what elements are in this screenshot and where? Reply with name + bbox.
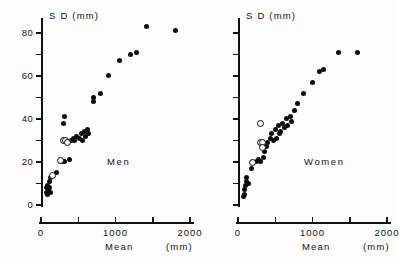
x-axis-tick [275,217,277,222]
y-axis-tick-label: 0 [4,199,33,210]
x-axis-title: Mean [302,241,331,252]
x-axis-tick [312,217,314,222]
data-point-filled [310,80,315,85]
data-point-open [57,157,64,164]
y-axis-tick [36,183,41,185]
data-point-filled [249,166,254,171]
y-axis-tick [36,97,41,99]
x-axis-tick [189,217,191,222]
y-axis-tick [233,54,238,56]
y-axis-tick [36,204,41,206]
y-axis-line [41,18,43,207]
y-axis-tick [233,118,238,120]
y-axis-tick [233,140,238,142]
y-axis-tick [36,54,41,56]
data-point-filled [336,50,341,55]
data-point-open [259,144,266,151]
data-point-filled [173,28,178,33]
x-axis-unit-label: (mm) [363,241,390,252]
x-axis-tick-label: 0 [16,227,66,238]
x-axis-tick [152,217,154,222]
y-axis-tick [36,32,41,34]
x-axis-tick [40,217,42,222]
data-point-filled [134,50,139,55]
data-point-filled [289,119,294,124]
data-point-filled [274,136,279,141]
y-axis-title: S D (mm) [246,10,296,21]
data-point-filled [117,58,122,63]
y-axis-line [238,18,240,207]
data-point-open [249,159,256,166]
y-axis-tick-label: 20 [4,156,33,167]
x-axis-tick [349,217,351,222]
data-point-filled [91,99,96,104]
x-axis-tick-label: 1000 [288,227,338,238]
y-axis-tick [36,161,41,163]
x-axis-tick-label: 2000 [165,227,215,238]
y-axis-tick [36,118,41,120]
y-axis-tick [233,75,238,77]
y-axis-tick [233,161,238,163]
y-axis-tick [233,97,238,99]
data-point-filled [62,114,67,119]
data-point-filled [128,52,133,57]
x-axis-tick-label: 1000 [91,227,141,238]
x-axis-tick [237,217,239,222]
y-axis-tick-label: 80 [4,27,33,38]
x-axis-title: Mean [105,241,134,252]
x-axis-line [236,222,391,224]
data-point-filled [47,179,52,184]
y-axis-tick [233,204,238,206]
data-point-filled [98,91,103,96]
panel-label-women: Women [304,156,345,167]
panel-men [0,0,197,259]
panel-label-men: Men [107,156,130,167]
data-point-filled [292,108,297,113]
x-axis-tick [115,217,117,222]
y-axis-tick [36,140,41,142]
y-axis-tick [233,32,238,34]
y-axis-title: S D (mm) [49,10,99,21]
y-axis-tick-label: 40 [4,113,33,124]
y-axis-tick [36,75,41,77]
x-axis-line [39,222,194,224]
data-point-filled [246,181,251,186]
data-point-filled [261,155,266,160]
data-point-filled [61,121,66,126]
panel-women [197,0,394,259]
y-axis-tick [233,183,238,185]
data-point-filled [355,50,360,55]
x-axis-tick-label: 0 [213,227,263,238]
data-point-filled [106,73,111,78]
x-axis-tick-label: 2000 [362,227,403,238]
x-axis-tick [78,217,80,222]
data-point-filled [301,91,306,96]
data-point-filled [48,190,53,195]
y-axis-tick-label: 60 [4,70,33,81]
x-axis-tick [386,217,388,222]
x-axis-unit-label: (mm) [166,241,193,252]
data-point-filled [242,192,247,197]
